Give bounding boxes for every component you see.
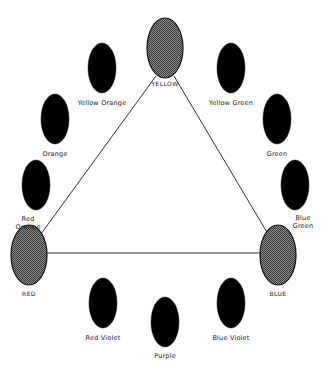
yellow-label: YELLOW [152,80,179,88]
orange-swatch [41,94,69,144]
yellow-green-swatch [217,43,245,93]
orange-label: Orange [42,150,67,158]
green-label: Green [267,150,288,158]
red-orange-swatch [22,160,50,210]
red-swatch [11,225,47,285]
red-orange-label: Red Orange [15,215,40,231]
red-violet-swatch [89,278,117,328]
blue-green-swatch [281,160,309,210]
yellow-orange-label: Yellow Orange [78,99,127,107]
blue-violet-swatch [217,278,245,328]
purple-label: Purple [154,352,176,360]
green-swatch [263,94,291,144]
blue-violet-label: Blue Violet [212,334,249,342]
blue-label: BLUE [270,290,287,298]
blue-green-label: Blue Green [293,214,314,230]
yellow-green-label: Yellow Green [209,99,253,107]
red-violet-label: Red Violet [86,334,121,342]
purple-swatch [151,297,179,347]
color-wheel-diagram [0,0,326,366]
blue-swatch [260,225,296,285]
red-label: RED [22,290,36,298]
yellow-swatch [147,18,183,78]
yellow-orange-swatch [88,43,116,93]
